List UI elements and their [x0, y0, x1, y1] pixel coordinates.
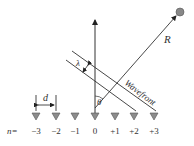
index-label: −2 [51, 126, 61, 136]
array-element-icon [52, 113, 60, 120]
range-label: R [163, 33, 171, 45]
array-elements [32, 113, 158, 120]
index-label: +3 [149, 126, 159, 136]
wavefront-label: Wavefront [123, 78, 158, 108]
antenna-array-diagram: R λ Wavefront θ d n= −3 −2 −1 0 +1 +2 +3 [0, 0, 194, 146]
wavelength-dimension [83, 65, 88, 72]
array-element-icon [32, 113, 40, 120]
theta-label: θ [97, 97, 102, 107]
array-element-icon [111, 113, 119, 120]
source-icon [176, 8, 184, 16]
index-label: 0 [93, 126, 98, 136]
array-element-icon [150, 113, 158, 120]
wavelength-label: λ [75, 58, 80, 68]
index-label: −3 [31, 126, 41, 136]
spacing-label: d [43, 92, 49, 103]
index-prefix-label: n= [7, 126, 18, 136]
array-element-icon [130, 113, 138, 120]
index-label: +1 [110, 126, 120, 136]
element-index-labels: −3 −2 −1 0 +1 +2 +3 [31, 126, 159, 136]
array-element-icon [71, 113, 79, 120]
index-label: +2 [129, 126, 139, 136]
index-label: −1 [70, 126, 80, 136]
wavefront-line-1 [72, 51, 156, 111]
array-element-icon [91, 113, 99, 120]
